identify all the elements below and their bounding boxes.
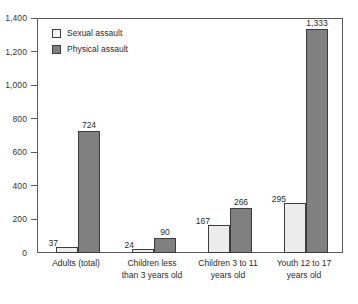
y-axis-tick-mark [31, 85, 37, 86]
bar-value-label: 1,333 [300, 18, 334, 28]
y-axis-tick-label: 0 [22, 247, 27, 259]
y-axis-tick-label: 1,200 [5, 46, 27, 58]
x-axis-label: Youth 12 to 17years old [262, 258, 346, 281]
bar-group: 2951,333 [38, 18, 342, 253]
y-axis-tick-label: 800 [13, 113, 27, 125]
x-axis-label-line: Children 3 to 11 [186, 258, 270, 270]
x-axis-label: Adults (total) [34, 258, 118, 270]
y-axis-tick-mark [31, 152, 37, 153]
bars-layer: 3772424901672662951,333 [38, 18, 342, 253]
x-axis-label-line: Adults (total) [34, 258, 118, 270]
y-axis-tick-label: 1,000 [5, 79, 27, 91]
y-axis: 02004006008001,0001,2001,400 [0, 0, 37, 304]
y-axis-tick-label: 1,400 [5, 12, 27, 24]
x-axis-label-line: than 3 years old [110, 270, 194, 282]
y-axis-tick-mark [31, 18, 37, 19]
y-axis-tick-mark [31, 118, 37, 119]
x-axis-label-line: Youth 12 to 17 [262, 258, 346, 270]
y-axis-tick-label: 400 [13, 180, 27, 192]
y-axis-tick-mark [31, 51, 37, 52]
x-axis-label-line: Children less [110, 258, 194, 270]
y-axis-tick-mark [31, 185, 37, 186]
bar-physical-assault [306, 29, 328, 253]
x-axis-labels: Adults (total)Children lessthan 3 years … [38, 258, 342, 304]
x-axis-label: Children 3 to 11years old [186, 258, 270, 281]
bar-sexual-assault [284, 203, 306, 253]
x-axis-label-line: years old [186, 270, 270, 282]
y-axis-tick-label: 200 [13, 213, 27, 225]
y-axis-tick-label: 600 [13, 146, 27, 158]
bar-value-label: 295 [252, 194, 286, 204]
bar-chart: 02004006008001,0001,2001,400 Sexual assa… [0, 0, 358, 304]
y-axis-tick-mark [31, 219, 37, 220]
x-axis-label: Children lessthan 3 years old [110, 258, 194, 281]
x-axis-label-line: years old [262, 270, 346, 282]
